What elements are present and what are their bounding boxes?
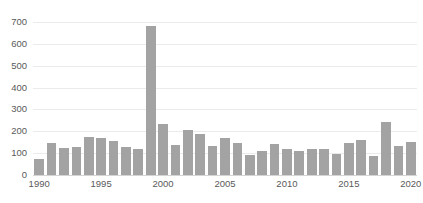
- x-tick-label: 2020: [400, 179, 421, 189]
- bar: [158, 124, 168, 175]
- bar: [96, 138, 106, 175]
- bar: [369, 156, 379, 175]
- bar: [356, 140, 366, 175]
- bars-layer: [33, 22, 417, 175]
- bar: [183, 130, 193, 175]
- y-tick-label: 700: [0, 17, 27, 27]
- bar: [394, 146, 404, 175]
- y-tick-label: 200: [0, 126, 27, 136]
- x-axis-line: [33, 175, 417, 176]
- bar: [72, 147, 82, 175]
- bar: [146, 26, 156, 175]
- bar: [233, 143, 243, 175]
- x-tick-label: 2010: [276, 179, 297, 189]
- bar: [59, 148, 69, 175]
- bar: [208, 146, 218, 175]
- bar-chart: 0100200300400500600700 19901995200020052…: [0, 0, 423, 203]
- x-tick-label: 2005: [214, 179, 235, 189]
- bar: [171, 145, 181, 175]
- x-tick-label: 1990: [29, 179, 50, 189]
- plot-area: [33, 22, 417, 175]
- bar: [133, 149, 143, 175]
- bar: [109, 141, 119, 175]
- x-tick-label: 2000: [152, 179, 173, 189]
- bar: [47, 143, 57, 175]
- bar: [406, 142, 416, 175]
- bar: [344, 143, 354, 175]
- bar: [270, 144, 280, 175]
- y-tick-label: 400: [0, 83, 27, 93]
- y-tick-label: 500: [0, 61, 27, 71]
- x-axis-labels: 1990199520002005201020152020: [0, 179, 423, 195]
- bar: [294, 151, 304, 175]
- bar: [332, 154, 342, 175]
- x-tick-label: 1995: [91, 179, 112, 189]
- y-tick-label: 600: [0, 39, 27, 49]
- bar: [319, 149, 329, 175]
- bar: [257, 151, 267, 175]
- bar: [282, 149, 292, 175]
- bar: [195, 134, 205, 175]
- bar: [381, 122, 391, 175]
- bar: [121, 147, 131, 175]
- bar: [84, 137, 94, 175]
- y-tick-label: 300: [0, 104, 27, 114]
- bar: [307, 149, 317, 175]
- x-tick-label: 2015: [338, 179, 359, 189]
- bar: [34, 159, 44, 175]
- bar: [245, 155, 255, 175]
- y-tick-label: 100: [0, 148, 27, 158]
- bar: [220, 138, 230, 175]
